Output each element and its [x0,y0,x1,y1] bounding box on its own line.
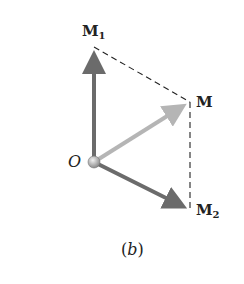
dashed-line-m1-m [94,47,190,102]
label-m2: M2 [196,203,220,220]
label-origin: O [68,154,81,170]
origin-point [88,156,100,168]
label-m1: M1 [82,24,106,41]
vector-m2 [94,162,180,205]
label-m: M [196,95,213,110]
vector-m [94,108,180,162]
figure-caption: (b) [121,242,144,258]
